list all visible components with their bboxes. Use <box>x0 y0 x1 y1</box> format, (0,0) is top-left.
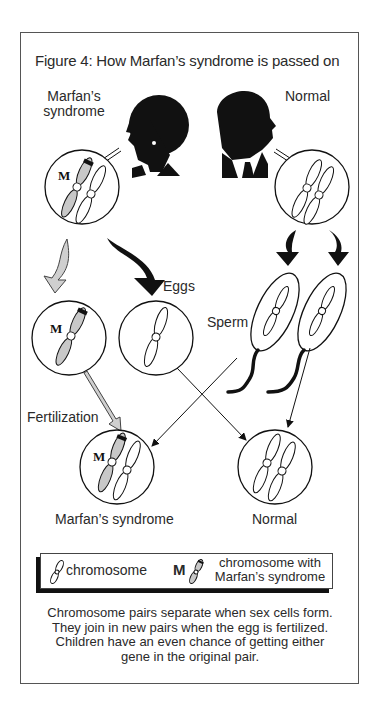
sperm-arrow-right-icon <box>328 230 349 266</box>
mother-silhouette-icon <box>126 95 189 178</box>
offspring-normal-cell <box>238 430 312 504</box>
normal-egg-cell <box>119 301 193 375</box>
svg-text:M: M <box>93 449 105 464</box>
affected-parent-cell: M <box>45 150 119 225</box>
egg-arrow-icon <box>107 238 165 296</box>
figure-caption: Chromosome pairs separate when sex cells… <box>40 606 340 664</box>
fertilization-arrow-icon <box>84 371 121 431</box>
marfan-chromosome-icon <box>188 558 204 586</box>
sperm-arrow-left-icon <box>276 230 299 266</box>
normal-parent-cell <box>275 150 349 226</box>
marker-m: M <box>58 168 70 183</box>
legend-marfan-line2: Marfan’s syndrome <box>211 570 329 584</box>
legend-marfan-label: chromosome with Marfan’s syndrome <box>211 556 329 584</box>
legend-chromosome-label: chromosome <box>66 562 147 578</box>
offspring-affected-cell: M <box>80 430 154 504</box>
legend-marker-m: M <box>173 561 186 578</box>
affected-gamete-arrow-icon <box>44 239 69 293</box>
father-silhouette-icon <box>217 91 276 178</box>
affected-egg-cell: M <box>32 301 106 375</box>
legend-box: chromosome M chromosome with Marfan’s sy… <box>40 553 333 589</box>
svg-text:M: M <box>50 321 62 336</box>
chromosome-icon <box>49 559 65 585</box>
legend-marfan-line1: chromosome with <box>211 556 329 570</box>
